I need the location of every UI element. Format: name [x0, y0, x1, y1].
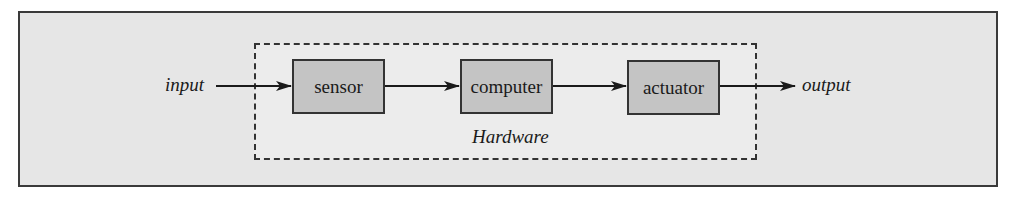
sensor-block: sensor	[292, 59, 385, 114]
computer-block-label: computer	[471, 76, 543, 98]
input-label: input	[165, 74, 204, 96]
actuator-block-label: actuator	[643, 77, 704, 99]
computer-block: computer	[460, 59, 553, 114]
hardware-group-label: Hardware	[472, 126, 549, 148]
actuator-block: actuator	[627, 60, 720, 115]
output-label: output	[802, 74, 851, 96]
sensor-block-label: sensor	[314, 76, 363, 98]
